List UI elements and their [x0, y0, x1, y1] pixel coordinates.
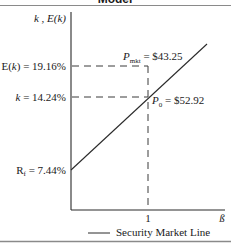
x-tick-1: 1	[145, 212, 151, 224]
sml-figure: Model k , E(k) E(k) = 19.16% k = 14.24% …	[0, 0, 231, 245]
k-label: k = 14.24%	[15, 91, 66, 103]
y-axis-label: k , E(k)	[34, 12, 66, 25]
sml-chart: Model k , E(k) E(k) = 19.16% k = 14.24% …	[0, 0, 231, 245]
legend-label: Security Market Line	[116, 226, 210, 238]
rf-label: Rf = 7.44%	[16, 164, 66, 178]
ek-label: E(k) = 19.16%	[1, 60, 66, 73]
pmkt-label: Pmkt = $43.25	[122, 50, 183, 65]
x-axis-label-beta: ß	[218, 212, 225, 224]
p0-label: P0 = $52.92	[151, 94, 204, 109]
